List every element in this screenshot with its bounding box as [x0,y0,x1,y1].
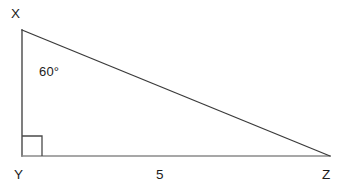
right-angle-marker [22,136,42,156]
triangle-drawing [0,0,342,195]
vertex-label-y: Y [14,168,23,182]
vertex-label-x: X [11,7,20,21]
vertex-label-z: Z [322,168,330,182]
triangle-figure: X Y Z 60° 5 [0,0,342,195]
angle-label-60-degrees: 60° [39,65,59,78]
segment-xz [22,30,330,156]
side-length-label-yz: 5 [156,168,164,182]
